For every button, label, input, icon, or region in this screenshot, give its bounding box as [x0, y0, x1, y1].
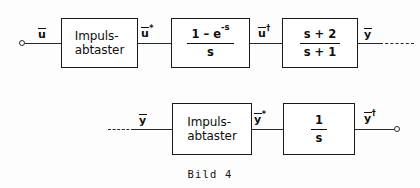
block-diagram-figure: u Impuls- abtaster u* 1 – e-s s u† s + 2… [0, 0, 420, 188]
sampler-bottom-line1: Impuls- [187, 115, 237, 129]
wire-input-to-sampler [25, 43, 61, 44]
hold-exponent: -s [221, 22, 230, 32]
sampler-bottom-text: Impuls- abtaster [187, 115, 237, 143]
signal-label-y-bottom-input: y [139, 114, 146, 126]
sampler-bottom-line2: abtaster [187, 129, 237, 143]
hold-denominator: s [187, 43, 233, 59]
wire-hold-to-plant [250, 43, 282, 44]
output-terminal-circle [394, 126, 400, 132]
integrator-denominator: s [311, 129, 327, 145]
signal-label-u-input: u [38, 28, 46, 40]
sampler-top-line2: abtaster [75, 43, 125, 57]
integrator-numerator: 1 [311, 113, 327, 128]
sampler-top-text: Impuls- abtaster [75, 29, 125, 57]
wire-bottom-dashed-entry [108, 129, 134, 130]
signal-u-bar-dagger: u [258, 27, 266, 39]
superscript-dagger: † [266, 24, 270, 33]
signal-y-bar-top: y [364, 28, 371, 40]
signal-label-y-dagger: y† [364, 112, 376, 124]
block-impulse-sampler-bottom[interactable]: Impuls- abtaster [172, 103, 252, 155]
hold-numerator: 1 – e-s [187, 27, 233, 42]
signal-y-bar-dagger: y [364, 112, 371, 124]
superscript-asterisk: * [149, 24, 153, 33]
figure-caption: Bild 4 [0, 168, 420, 180]
plant-numerator: s + 2 [300, 27, 341, 42]
signal-label-y-top-output: y [364, 28, 371, 40]
hold-numerator-text: 1 – e [191, 27, 221, 41]
transfer-function-plant: s + 2 s + 1 [300, 27, 341, 59]
block-impulse-sampler-top[interactable]: Impuls- abtaster [61, 18, 138, 68]
wire-sampler-to-hold [138, 43, 171, 44]
superscript-dagger-bottom: † [372, 109, 376, 118]
wire-integrator-output [355, 129, 394, 130]
wire-plant-output [358, 43, 380, 44]
transfer-function-hold: 1 – e-s s [187, 27, 233, 59]
signal-y-bar-star: y [254, 113, 261, 125]
sampler-top-line1: Impuls- [75, 29, 125, 43]
signal-label-y-star: y* [254, 113, 266, 125]
signal-y-bar-bottom-input: y [139, 114, 146, 126]
block-plant-transfer-function[interactable]: s + 2 s + 1 [282, 18, 358, 68]
wire-input-to-sampler-bottom [134, 129, 172, 130]
signal-label-u-star: u* [141, 27, 154, 39]
signal-u-bar-star: u [141, 27, 149, 39]
superscript-asterisk-bottom: * [262, 110, 266, 119]
signal-label-u-dagger: u† [258, 27, 270, 39]
block-zero-order-hold[interactable]: 1 – e-s s [171, 18, 250, 68]
plant-denominator: s + 1 [300, 43, 341, 59]
signal-u-bar: u [38, 28, 46, 40]
block-integrator[interactable]: 1 s [283, 103, 355, 155]
wire-sampler-to-integrator [252, 129, 283, 130]
transfer-function-integrator: 1 s [311, 113, 327, 145]
wire-top-dashed-continuation [380, 43, 414, 44]
